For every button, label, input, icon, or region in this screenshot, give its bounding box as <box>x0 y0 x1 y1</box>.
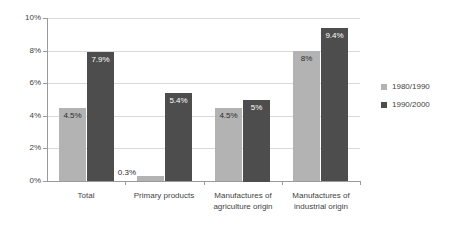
y-axis-tick-label: 0% <box>10 177 41 185</box>
bar[interactable] <box>321 28 348 181</box>
bar[interactable] <box>87 52 114 181</box>
bar-value-label: 4.5% <box>59 112 86 120</box>
bar-value-label: 4.5% <box>215 112 242 120</box>
y-axis-tick-label: 8% <box>10 47 41 55</box>
x-axis-tick-mark <box>360 181 361 185</box>
y-axis-tick-label: 10% <box>10 14 41 22</box>
bar-value-label: 8% <box>293 55 320 63</box>
bar-value-label: 7.9% <box>87 56 114 64</box>
legend-swatch-icon <box>381 84 387 90</box>
y-axis-line <box>47 18 48 182</box>
bar-value-label: 5.4% <box>165 97 192 105</box>
gridline <box>47 18 360 19</box>
x-axis-category-label: Primary products <box>119 190 209 201</box>
x-axis-tick-mark <box>282 181 283 185</box>
bar[interactable] <box>243 100 270 182</box>
bar-value-label: 9.4% <box>321 32 348 40</box>
legend-label: 1990/2000 <box>392 101 430 109</box>
legend: 1980/1990 1990/2000 <box>381 78 430 114</box>
bar[interactable] <box>137 176 164 181</box>
legend-swatch-icon <box>381 102 387 108</box>
y-axis-tick-label: 4% <box>10 112 41 120</box>
x-axis-tick-mark <box>125 181 126 185</box>
y-axis-tick-label: 2% <box>10 144 41 152</box>
x-axis-category-label: Manufactures of industrial origin <box>276 190 366 212</box>
bar[interactable] <box>165 93 192 181</box>
y-axis-tick-label: 6% <box>10 79 41 87</box>
bar[interactable] <box>293 51 320 181</box>
bar-value-label: 0.3% <box>102 169 136 177</box>
x-axis-category-label: Total <box>41 190 131 201</box>
legend-label: 1980/1990 <box>392 83 430 91</box>
legend-item-1990-2000[interactable]: 1990/2000 <box>381 96 430 114</box>
bar-value-label: 5% <box>243 104 270 112</box>
bar-chart: 0%2%4%6%8%10% 4.5%7.9%0.3%5.4%4.5%5%8%9.… <box>0 0 452 232</box>
x-axis-tick-mark <box>204 181 205 185</box>
x-axis-category-label: Manufactures of agriculture origin <box>198 190 288 212</box>
legend-item-1980-1990[interactable]: 1980/1990 <box>381 78 430 96</box>
